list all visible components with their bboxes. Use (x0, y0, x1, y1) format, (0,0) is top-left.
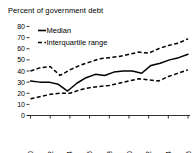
y-axis-tick-label: 70 (17, 34, 25, 41)
y-axis-tick-label: 30 (17, 79, 25, 86)
y-axis-tick-label: 80 (17, 23, 25, 30)
chart-plot-area: 01020304050607080 2000200220042006200820… (0, 0, 196, 153)
x-axis-tick-labels: 200020022004200620082010201220142016 (27, 151, 192, 153)
y-axis-tick-label: 20 (17, 90, 25, 97)
x-axis-tick-label: 2012 (145, 151, 152, 153)
x-axis-tick-label: 2002 (47, 151, 54, 153)
x-axis-tick-marks (31, 116, 189, 119)
y-axis-tick-label: 0 (21, 112, 25, 119)
y-axis-tick-marks (27, 27, 30, 116)
x-axis-tick-label: 2004 (66, 151, 73, 153)
x-axis-tick-label: 2010 (126, 151, 133, 153)
y-axis-tick-labels: 01020304050607080 (17, 23, 25, 119)
x-axis-tick-label: 2014 (165, 151, 172, 153)
x-axis-tick-label: 2000 (27, 151, 34, 153)
chart-container: Percent of government debt 0102030405060… (0, 0, 196, 153)
y-axis-tick-label: 50 (17, 56, 25, 63)
y-axis-tick-label: 10 (17, 101, 25, 108)
chart-series-lines (31, 39, 189, 99)
y-axis-tick-label: 40 (17, 68, 25, 75)
legend-label-interquartile-range: Interquartile range (47, 38, 108, 47)
x-axis-tick-label: 2006 (86, 151, 93, 153)
x-axis-tick-label: 2008 (106, 151, 113, 153)
x-axis-tick-label: 2016 (185, 151, 192, 153)
legend-label-median: Median (47, 26, 72, 35)
y-axis-tick-label: 60 (17, 45, 25, 52)
chart-legend: Median Interquartile range (38, 26, 107, 47)
